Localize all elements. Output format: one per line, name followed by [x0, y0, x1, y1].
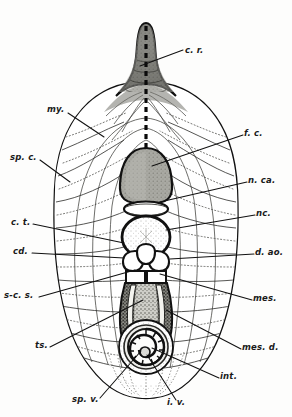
label-ts: ts. [35, 341, 48, 350]
label-my: my. [47, 105, 64, 114]
label-c-r: c. r. [185, 46, 203, 55]
label-nc: nc. [256, 209, 271, 218]
label-i-v: i. v. [167, 398, 185, 407]
intestinal-vein [140, 347, 150, 357]
label-f-c: f. c. [244, 129, 263, 138]
label-sp-v: sp. v. [72, 395, 99, 404]
label-sp-c: sp. c. [10, 153, 37, 162]
intestine-spiral-valve [119, 320, 173, 374]
label-mes: mes. [253, 294, 277, 303]
label-c-t: c. t. [11, 218, 31, 227]
label-int: int. [220, 372, 237, 381]
label-cd: cd. [13, 247, 28, 256]
label-n-ca: n. ca. [248, 176, 275, 185]
dorsal-aorta[interactable] [137, 244, 155, 264]
label-d-ao: d. ao. [255, 248, 283, 257]
anatomical-figure: c. r. my. f. c. sp. c. n. ca. nc. c. t. … [0, 0, 292, 417]
neural-canal [124, 202, 168, 217]
funicular-cord [120, 148, 172, 204]
label-mes-d: mes. d. [242, 343, 279, 352]
cross-section-drawing [0, 0, 292, 417]
label-s-c-s: s-c. s. [4, 291, 34, 300]
